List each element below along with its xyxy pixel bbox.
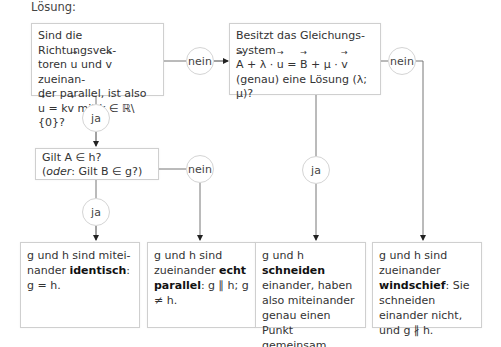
parallel-question-line1: Sind die Richtungsvek- — [38, 29, 157, 58]
point-question-line2: (oder: Gilt B ∈ g?) — [42, 165, 152, 179]
result-skew: g und h sind zueinander windschief: Sie … — [372, 242, 482, 328]
yes-label-3: ja — [302, 156, 330, 184]
result-intersect: g und h schneiden einander, haben also m… — [255, 242, 366, 328]
parallel-question-line3: der parallel, ist also — [38, 87, 157, 102]
system-question-line4: (genau) eine Lösung (λ; μ)? — [236, 73, 374, 102]
result-identical: g und h sind mitei-nander identisch: g =… — [20, 242, 140, 328]
decision-system-box: Besitzt das Gleichungs- system A + λ · u… — [229, 23, 381, 95]
system-question-equation: A + λ · u = B + μ · v — [236, 58, 374, 73]
system-question-line1: Besitzt das Gleichungs- — [236, 29, 374, 44]
no-label-1: nein — [186, 47, 214, 75]
no-label-2: nein — [388, 47, 416, 75]
point-question-line1: Gilt A ∈ h? — [42, 151, 152, 165]
decision-point-box: Gilt A ∈ h? (oder: Gilt B ∈ g?) — [35, 148, 159, 180]
yes-label-2: ja — [82, 198, 110, 226]
parallel-question-line2: toren u und v zueinan- — [38, 58, 157, 87]
no-label-3: nein — [186, 155, 214, 183]
decision-parallel-box: Sind die Richtungsvek- toren u und v zue… — [31, 23, 164, 96]
result-parallel: g und h sind zueinander echt parallel: g… — [147, 242, 256, 328]
yes-label-1: ja — [82, 104, 110, 132]
